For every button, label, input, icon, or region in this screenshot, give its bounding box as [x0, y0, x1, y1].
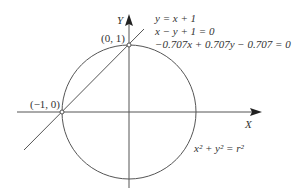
point-label-neg1-0: (−1, 0)	[30, 98, 60, 111]
point-0-1	[127, 43, 131, 47]
line-y-equals-x-plus-1	[24, 29, 144, 150]
x-axis-label: X	[244, 118, 253, 130]
equation-line-1: y = x + 1	[154, 12, 196, 24]
equation-line-2: x − y + 1 = 0	[154, 25, 215, 37]
point-neg1-0	[60, 110, 64, 114]
y-axis-label: Y	[117, 14, 125, 26]
circle-line-diagram: Y X (0, 1) (−1, 0) y = x + 1 x − y + 1 =…	[0, 0, 301, 193]
equation-line-3: −0.707x + 0.707y − 0.707 = 0	[155, 38, 291, 50]
point-label-0-1: (0, 1)	[101, 32, 125, 45]
equation-circle: x² + y² = r²	[193, 142, 244, 154]
